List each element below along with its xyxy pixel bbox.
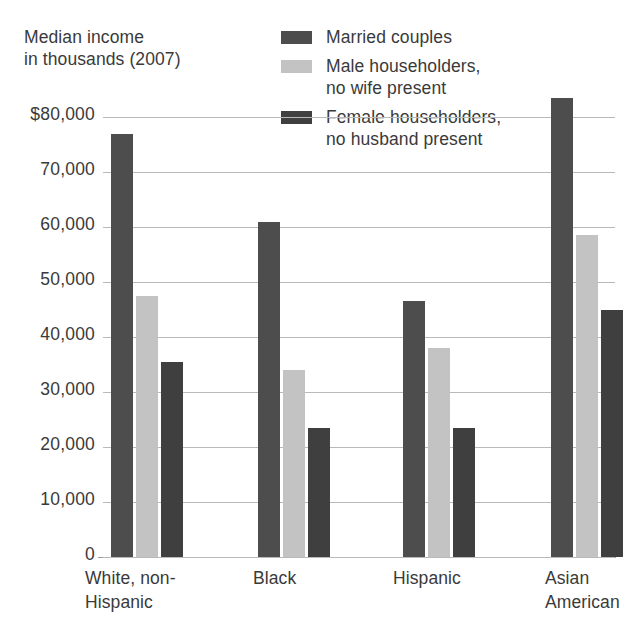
bar-group — [258, 117, 330, 557]
y-axis-tick-label: 40,000 — [0, 325, 95, 343]
y-axis-tick-label: 50,000 — [0, 270, 95, 288]
bar[interactable] — [258, 222, 280, 558]
y-axis-tick-label: 60,000 — [0, 215, 95, 233]
y-axis-tick-label: 0 — [0, 545, 95, 563]
bar[interactable] — [453, 428, 475, 557]
axis-caption: Median income in thousands (2007) — [24, 26, 181, 70]
plot-area — [103, 117, 615, 557]
x-axis-category-label: Hispanic — [393, 566, 461, 590]
x-axis-category-label: Black — [253, 566, 296, 590]
bar[interactable] — [576, 235, 598, 557]
bar[interactable] — [601, 310, 623, 558]
bar-group — [403, 117, 475, 557]
bar-group — [111, 117, 183, 557]
legend-swatch-married-couples — [281, 31, 312, 44]
bar-group — [551, 117, 623, 557]
legend-item-label: Married couples — [326, 26, 452, 48]
bar[interactable] — [111, 134, 133, 558]
y-axis-tick-label: 30,000 — [0, 380, 95, 398]
y-axis-tick-label: 70,000 — [0, 160, 95, 178]
x-axis-category-label: Asian American — [545, 566, 620, 614]
x-axis-category-labels: White, non- HispanicBlackHispanicAsian A… — [103, 566, 615, 628]
legend-item[interactable]: Married couples — [281, 26, 631, 48]
y-axis-tick-labels: 010,00020,00030,00040,00050,00060,00070,… — [0, 117, 95, 557]
legend-item-label: Male householders, no wife present — [326, 55, 481, 99]
x-axis-category-label: White, non- Hispanic — [85, 566, 176, 614]
bar[interactable] — [403, 301, 425, 557]
bar[interactable] — [161, 362, 183, 557]
chart-figure: Median income in thousands (2007) Marrie… — [0, 0, 634, 633]
bar[interactable] — [308, 428, 330, 557]
y-axis-tick-label: 10,000 — [0, 490, 95, 508]
bar[interactable] — [551, 98, 573, 557]
y-axis-tick-label: 20,000 — [0, 435, 95, 453]
y-axis-tick-label: $80,000 — [0, 105, 95, 123]
legend-swatch-male-householders — [281, 60, 312, 73]
bar[interactable] — [136, 296, 158, 557]
legend-item[interactable]: Male householders, no wife present — [281, 55, 631, 99]
bar[interactable] — [428, 348, 450, 557]
gridline — [103, 557, 615, 558]
bar[interactable] — [283, 370, 305, 557]
